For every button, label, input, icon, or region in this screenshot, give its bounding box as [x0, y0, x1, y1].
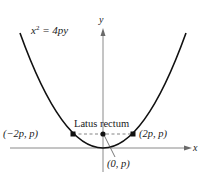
left-endpoint-marker — [71, 132, 76, 137]
left-endpoint-label: (−2p, p) — [3, 129, 38, 140]
right-endpoint-label: (2p, p) — [139, 129, 167, 140]
x-axis-label: x — [193, 143, 197, 153]
x-axis-arrow-icon — [184, 146, 192, 151]
focus-label: (0, p) — [107, 159, 130, 170]
right-endpoint-marker — [131, 132, 136, 137]
focus-point-marker — [100, 131, 105, 136]
y-axis-label: y — [99, 15, 103, 25]
y-axis-arrow-icon — [101, 28, 106, 36]
latus-rectum-label: Latus rectum — [74, 119, 129, 130]
equation-label: x2 = 4py — [31, 25, 68, 36]
